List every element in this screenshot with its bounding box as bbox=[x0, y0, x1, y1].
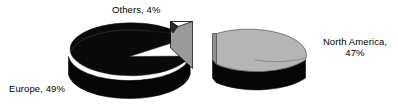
slice-label-europe: Europe, 49% bbox=[9, 83, 65, 94]
slice-north-america bbox=[213, 29, 307, 90]
slice-label-north-america-line2: 47% bbox=[318, 47, 392, 58]
slice-label-others: Others, 4% bbox=[112, 4, 161, 15]
slice-north-america-cut-face bbox=[213, 34, 217, 65]
slice-north-america-top bbox=[217, 29, 307, 71]
slice-label-north-america-line1: North America, bbox=[318, 36, 392, 47]
slice-label-north-america: North America, 47% bbox=[318, 36, 392, 58]
pie-chart: Others, 4% Europe, 49% North America, 47… bbox=[0, 0, 398, 112]
